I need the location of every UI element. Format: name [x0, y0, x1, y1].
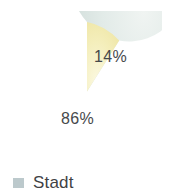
- legend-swatch-stadt: [13, 178, 24, 188]
- pie-svg: [12, 11, 162, 172]
- chart-legend: Stadt: [13, 174, 74, 191]
- legend-label-stadt: Stadt: [33, 174, 74, 191]
- pie-slice-label-86: 86%: [61, 110, 94, 128]
- pie-chart-figure: 14% 86% Stadt: [0, 0, 181, 194]
- pie-chart-graphic: [12, 11, 162, 172]
- pie-slice-label-14: 14%: [94, 48, 127, 66]
